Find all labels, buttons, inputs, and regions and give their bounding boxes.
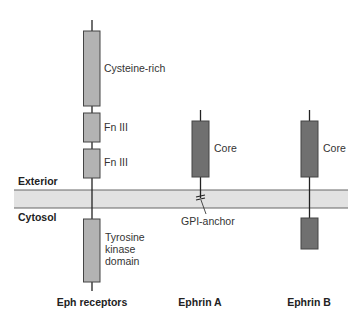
ephrin-b-cytoplasmic-domain [301, 218, 318, 249]
ephrin-a-core [192, 121, 209, 177]
fn3-label-2: Fn III [104, 156, 128, 168]
ephrin-b-title: Ephrin B [287, 296, 331, 308]
tyrosine-label-line3: domain [105, 255, 140, 267]
cysteine-rich-domain [84, 31, 101, 106]
exterior-label: Exterior [18, 175, 58, 187]
ephrin-diagram: Exterior Cytosol Cysteine-rich Fn III Fn… [0, 0, 358, 316]
cytosol-label: Cytosol [18, 211, 57, 223]
tyrosine-kinase-domain [84, 219, 101, 282]
eph-receptors-title: Eph receptors [57, 296, 128, 308]
fn3-label-1: Fn III [104, 121, 128, 133]
fn3-domain-1 [84, 113, 101, 142]
ephrin-b-core [301, 121, 318, 177]
tyrosine-label-line2: kinase [105, 243, 136, 255]
cysteine-rich-label: Cysteine-rich [104, 62, 165, 74]
ephrin-a-core-label: Core [214, 142, 237, 154]
ephrin-a-title: Ephrin A [178, 296, 222, 308]
eph-receptor [84, 20, 101, 291]
ephrin-b-core-label: Core [323, 142, 346, 154]
fn3-domain-2 [84, 149, 101, 178]
membrane [14, 190, 348, 208]
gpi-anchor-label: GPI-anchor [181, 215, 235, 227]
ephrin-b [301, 110, 318, 249]
tyrosine-label-line1: Tyrosine [105, 231, 145, 243]
